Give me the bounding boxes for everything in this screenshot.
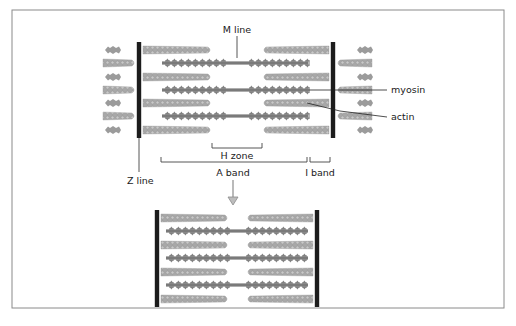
myosin-stub xyxy=(357,73,373,81)
actin-filament xyxy=(103,112,134,120)
z-line xyxy=(137,42,141,138)
z-line-label: Z line xyxy=(127,175,154,186)
myosin-stub xyxy=(105,126,121,134)
actin-filament xyxy=(264,73,329,81)
actin-filament xyxy=(161,295,227,303)
myosin-label: myosin xyxy=(391,84,425,95)
myosin-stub xyxy=(105,46,121,54)
myosin-stub xyxy=(357,126,373,134)
actin-filament xyxy=(264,126,329,134)
z-line xyxy=(155,210,159,307)
myosin-stub xyxy=(357,99,373,107)
myosin-stub xyxy=(357,46,373,54)
i-band-label: I band xyxy=(305,167,335,178)
z-line xyxy=(315,210,319,307)
actin-filament xyxy=(161,214,227,222)
arrow-head-icon xyxy=(228,197,238,205)
sarcomere-diagram: M line myosin actin H zone A band I band… xyxy=(0,0,516,326)
actin-filament xyxy=(248,214,313,222)
actin-filament xyxy=(248,295,313,303)
actin-label: actin xyxy=(391,111,414,122)
actin-filament xyxy=(103,59,134,67)
actin-filament xyxy=(143,73,210,81)
h-zone-label: H zone xyxy=(221,150,254,161)
figure-frame xyxy=(12,10,504,308)
actin-filament xyxy=(143,46,210,54)
contracted-sarcomere xyxy=(155,210,319,307)
myosin-stub xyxy=(105,99,121,107)
actin-filament xyxy=(338,59,372,67)
i-band-bracket xyxy=(310,157,330,162)
actin-filament xyxy=(161,241,227,249)
actin-filament xyxy=(143,126,210,134)
actin-filament xyxy=(264,46,329,54)
actin-filament xyxy=(103,86,134,94)
a-band-label: A band xyxy=(216,167,249,178)
actin-filament xyxy=(248,268,313,276)
actin-filament xyxy=(161,268,227,276)
m-line-label: M line xyxy=(223,24,252,35)
actin-filament xyxy=(143,99,210,107)
myosin-stub xyxy=(105,73,121,81)
h-zone-bracket xyxy=(212,143,262,148)
actin-filament xyxy=(248,241,313,249)
